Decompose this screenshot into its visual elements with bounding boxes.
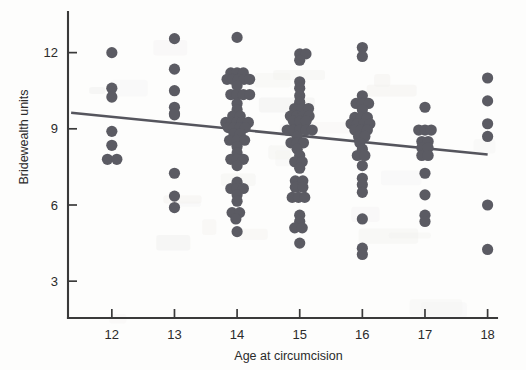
data-point [169,64,180,75]
x-axis-tick-label: 13 [167,327,181,342]
data-point [482,244,493,255]
data-point [419,168,430,179]
x-axis-tick-label: 18 [480,327,494,342]
data-point [231,32,242,43]
data-point [357,51,368,62]
data-point [294,237,305,248]
data-point [169,109,180,120]
x-axis-tick-label: 17 [418,327,432,342]
data-point [482,131,493,142]
data-point [423,150,434,161]
data-point [297,182,308,193]
y-axis-tick-label: 12 [44,45,58,60]
data-point [426,124,437,135]
data-point [169,191,180,202]
x-axis-tick-label: 15 [292,327,306,342]
data-point [169,85,180,96]
data-point [357,160,368,171]
data-point [482,199,493,210]
data-point [106,47,117,58]
x-axis-title: Age at circumcision [234,349,342,363]
data-point [106,126,117,137]
y-axis-tick-label: 3 [51,274,58,289]
data-points-layer [102,32,493,260]
data-point [482,118,493,129]
scatter-plot-figure: 3691212131415161718Age at circumcisionBr… [0,0,526,370]
data-point [111,154,122,165]
data-point [244,89,255,100]
data-point [357,187,368,198]
data-point [106,140,117,151]
y-axis-tick-label: 9 [51,121,58,136]
data-point [482,72,493,83]
data-point [307,124,318,135]
data-point [231,226,242,237]
data-point [357,249,368,260]
data-point [169,202,180,213]
x-axis-tick-label: 12 [105,327,119,342]
x-axis-tick-label: 16 [355,327,369,342]
data-point [419,189,430,200]
data-point [231,160,242,171]
data-point [169,33,180,44]
x-axis-tick-label: 14 [230,327,244,342]
data-point [359,150,370,161]
data-point [419,102,430,113]
data-point [482,95,493,106]
data-point [294,55,305,66]
data-point [357,213,368,224]
data-point [299,192,310,203]
plot-canvas: 3691212131415161718Age at circumcisionBr… [0,0,526,370]
data-point [297,222,308,233]
data-point [169,168,180,179]
data-point [106,91,117,102]
data-point [419,216,430,227]
data-point [244,74,255,85]
y-axis-tick-label: 6 [51,198,58,213]
data-point [231,196,242,207]
data-point [230,213,241,224]
data-point [294,163,305,174]
y-axis-title: Bridewealth units [17,89,31,184]
